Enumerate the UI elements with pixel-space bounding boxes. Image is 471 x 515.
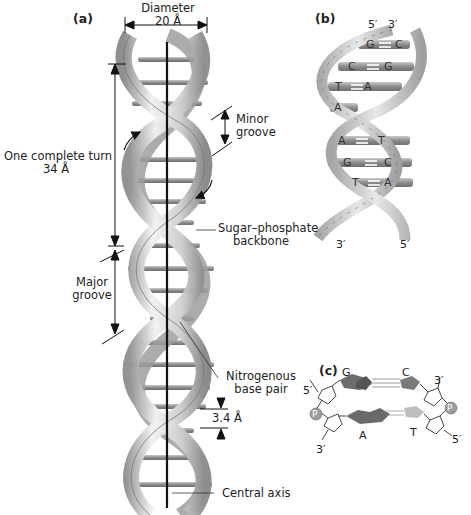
minor-groove-line2: groove	[236, 126, 276, 139]
c-left-5prime: 5′	[303, 384, 313, 397]
b-bottom-5prime: 5′	[400, 238, 410, 251]
b-base-A3: A	[364, 80, 372, 93]
diameter-label: Diameter 20 Å	[140, 2, 196, 28]
c-base-G: G	[342, 366, 351, 379]
dna-figure	[0, 0, 471, 515]
b-base-A4: A	[334, 101, 342, 114]
major-groove-label: Major groove	[72, 276, 112, 302]
b-bottom-3prime: 3′	[336, 238, 346, 251]
panel-label-a: (a)	[73, 11, 93, 26]
major-groove-line2: groove	[72, 289, 112, 302]
diameter-value: 20 Å	[140, 15, 196, 28]
b-top-5prime: 5′	[368, 18, 378, 31]
backbone-line2: backbone	[218, 235, 304, 248]
b-base-C6: C	[384, 156, 392, 169]
c-right-3prime: 3′	[434, 374, 444, 387]
b-base-T7: T	[352, 176, 359, 189]
c-phosphate-right-label: P	[447, 402, 452, 415]
minor-groove-label: Minor groove	[236, 113, 276, 139]
b-base-A7: A	[384, 176, 392, 189]
b-base-G2: G	[384, 60, 393, 73]
b-base-A5: A	[338, 134, 346, 147]
central-axis-label: Central axis	[222, 487, 291, 500]
b-base-G6: G	[343, 156, 352, 169]
c-right-5prime: 5′	[452, 433, 462, 446]
panel-label-c: (c)	[319, 363, 338, 378]
backbone-label: Sugar–phosphate backbone	[218, 222, 304, 248]
c-phosphate-left-label: P	[312, 408, 317, 421]
c-base-A: A	[359, 429, 367, 442]
b-base-T3: T	[335, 80, 342, 93]
c-base-C: C	[402, 366, 410, 379]
turn-label: One complete turn 34 Å	[4, 150, 108, 176]
c-left-3prime: 3′	[316, 443, 326, 456]
b-top-3prime: 3′	[388, 18, 398, 31]
b-base-T5: T	[378, 134, 385, 147]
b-base-C1: C	[395, 38, 403, 51]
b-base-C2: C	[348, 60, 356, 73]
minor-groove-dimension	[211, 106, 232, 156]
b-base-G1: G	[366, 38, 375, 51]
double-helix-b	[318, 30, 421, 240]
double-helix-a	[124, 35, 214, 515]
panel-label-b: (b)	[315, 11, 335, 26]
turn-value: 34 Å	[4, 163, 108, 176]
rise-label: 3.4 Å	[212, 412, 242, 425]
c-base-T: T	[410, 426, 417, 439]
base-pair-line2: base pair	[220, 383, 302, 396]
base-pair-label: Nitrogenous base pair	[220, 370, 302, 396]
